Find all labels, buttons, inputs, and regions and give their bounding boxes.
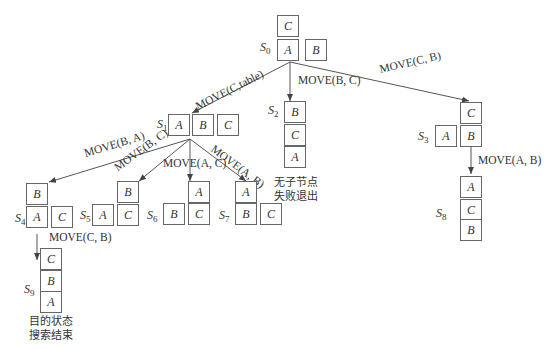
- block-b: B: [26, 183, 48, 205]
- block-b: B: [460, 125, 482, 147]
- block-a: A: [460, 176, 482, 198]
- state-label-s9: S9: [24, 282, 35, 298]
- block-b: B: [460, 219, 482, 241]
- block-b: B: [235, 203, 257, 225]
- edge-layer: [0, 0, 548, 349]
- block-a: A: [435, 125, 457, 147]
- edge-label-s0-s2: MOVE(B, C): [298, 74, 361, 86]
- block-c: C: [460, 199, 482, 221]
- block-a: A: [92, 204, 114, 226]
- block-b: B: [40, 270, 62, 292]
- state-label-s4: S4: [15, 211, 26, 227]
- block-a: A: [277, 39, 299, 61]
- block-c: C: [284, 124, 306, 146]
- state-label-s5: S5: [80, 208, 91, 224]
- block-c: C: [460, 102, 482, 124]
- block-b: B: [163, 203, 185, 225]
- block-c: C: [51, 206, 73, 228]
- block-b: B: [192, 114, 214, 136]
- goal-note: 目的状态 搜索结束: [26, 315, 76, 343]
- edge-label-s1-s6: MOVE(A, C): [163, 157, 226, 169]
- state-label-s6: S6: [147, 208, 158, 224]
- block-a: A: [26, 206, 48, 228]
- block-a: A: [188, 181, 210, 203]
- block-b: B: [305, 39, 327, 61]
- block-a: A: [168, 114, 190, 136]
- state-label-s0: S0: [260, 40, 271, 56]
- block-c: C: [117, 204, 139, 226]
- state-label-s2: S2: [268, 103, 279, 119]
- block-c: C: [188, 203, 210, 225]
- block-c: C: [217, 114, 239, 136]
- block-a: A: [40, 291, 62, 313]
- block-a: A: [284, 146, 306, 168]
- block-b: B: [117, 181, 139, 203]
- block-c: C: [277, 15, 299, 37]
- state-label-s7: S7: [219, 208, 230, 224]
- block-c: C: [40, 248, 62, 270]
- state-label-s3: S3: [418, 129, 429, 145]
- block-b: B: [284, 101, 306, 123]
- block-a: A: [235, 181, 257, 203]
- dead-end-note: 无子节点 失败退出: [271, 176, 321, 204]
- edge-label-s4-s9: MOVE(C, B): [49, 231, 112, 243]
- state-label-s8: S8: [436, 206, 447, 222]
- block-c: C: [260, 203, 282, 225]
- edge-label-s3-s8: MOVE(A, B): [478, 154, 541, 166]
